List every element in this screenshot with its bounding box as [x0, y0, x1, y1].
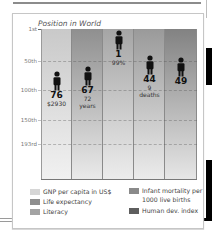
legend-swatch — [129, 208, 139, 214]
top-rule — [13, 2, 201, 4]
page-edge-bar — [203, 218, 212, 221]
value-label: years — [72, 102, 103, 109]
value-label: 99% — [103, 59, 134, 66]
divider — [206, 0, 207, 18]
person-icon — [145, 55, 155, 75]
marker-literacy: 1 99% — [103, 30, 134, 66]
value-label: $2930 — [41, 100, 72, 107]
legend-swatch — [129, 188, 139, 194]
y-tick-label: 193rd — [11, 141, 37, 147]
legend-swatch — [30, 189, 40, 195]
page-edge-bar — [206, 160, 212, 220]
legend-swatch — [30, 199, 40, 205]
person-icon — [114, 30, 124, 50]
legend: GNP per capita in US$ Life expectancy Li… — [30, 185, 200, 225]
marker-human-dev-index: 49 — [165, 57, 197, 86]
person-icon — [52, 71, 62, 91]
value-label: 9 — [134, 84, 165, 91]
marker-life-expectancy: 67 72 years — [72, 66, 103, 109]
page-edge-bar — [206, 48, 212, 85]
rank-value: 67 — [72, 86, 103, 95]
value-label: 72 — [72, 95, 103, 102]
gridline — [38, 144, 197, 145]
column-human-dev-index — [165, 29, 197, 179]
y-tick — [38, 29, 41, 30]
person-icon — [176, 57, 186, 77]
rank-value: 1 — [103, 50, 134, 59]
rank-value: 44 — [134, 75, 165, 84]
legend-item-infant-mortality-line2: 1000 live births — [142, 196, 190, 204]
y-tick-label: 150th — [11, 117, 37, 123]
y-tick-label: 100th — [11, 87, 37, 93]
gridline — [38, 120, 197, 121]
person-icon — [83, 66, 93, 86]
column-infant-mortality — [134, 29, 165, 179]
plot-area: 1st 50th 100th 150th 193rd 76 $2930 67 7… — [41, 29, 197, 180]
legend-swatch — [30, 209, 40, 215]
rank-value: 76 — [41, 91, 72, 100]
y-tick-label: 50th — [11, 58, 37, 64]
marker-infant-mortality: 44 9 deaths — [134, 55, 165, 98]
chart-card: Position in World 1st 50th 100th 150th 1… — [12, 13, 204, 229]
chart-title: Position in World — [38, 19, 101, 28]
marker-gnp: 76 $2930 — [41, 71, 72, 107]
value-label: deaths — [134, 91, 165, 98]
y-tick-label: 1st — [11, 26, 37, 32]
rank-value: 49 — [165, 77, 197, 86]
